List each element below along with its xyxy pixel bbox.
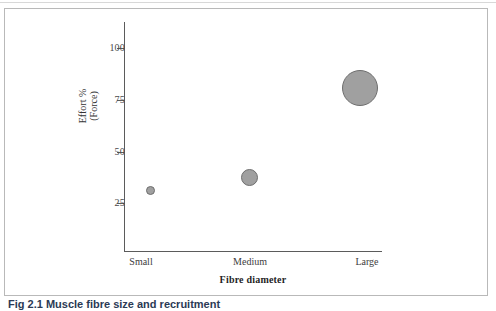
x-tick-label-medium: Medium <box>205 256 295 268</box>
chart-plot-area: 100 75 50 25 Effort % (Force) Small Medi… <box>0 0 496 311</box>
data-point-small <box>146 186 155 195</box>
y-tick-label-25-wrap: 25 <box>60 198 125 208</box>
x-axis-line <box>124 251 382 252</box>
y-tick-label-100: 100 <box>85 43 125 53</box>
data-point-medium <box>241 169 258 186</box>
y-tick-label-25: 25 <box>85 198 125 208</box>
y-axis-line <box>124 22 125 252</box>
figure-caption-strip: Fig 2.1 Muscle fibre size and recruitmen… <box>4 299 488 311</box>
x-axis-title: Fibre diameter <box>124 274 382 285</box>
figure-root: 100 75 50 25 Effort % (Force) Small Medi… <box>0 0 496 311</box>
figure-caption: Fig 2.1 Muscle fibre size and recruitmen… <box>8 299 220 311</box>
y-axis-title-line2: (Force) <box>88 61 99 151</box>
x-tick-label-small: Small <box>96 256 186 268</box>
x-tick-label-large: Large <box>322 256 412 268</box>
y-axis-title-line1: Effort % <box>77 61 88 151</box>
y-tick-label-100-wrap: 100 <box>60 43 125 53</box>
y-axis-title: Effort % (Force) <box>77 61 105 151</box>
data-point-large <box>342 70 378 106</box>
